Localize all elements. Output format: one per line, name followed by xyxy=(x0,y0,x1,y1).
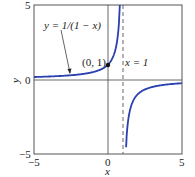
xtick-neg5: −5 xyxy=(28,157,40,168)
point-marker xyxy=(106,63,110,67)
x-axis-label: x xyxy=(105,166,110,177)
curve-right-branch xyxy=(126,83,182,147)
point-label: (0, 1) xyxy=(82,57,106,68)
xtick-5: 5 xyxy=(179,157,185,168)
y-axis-label: y xyxy=(10,78,21,83)
arrow-head-icon xyxy=(68,69,72,75)
asymptote-label: x = 1 xyxy=(125,57,148,68)
ytick-5: 5 xyxy=(25,0,31,11)
function-label: y = 1/(1 − x) xyxy=(44,20,101,31)
label-pointer xyxy=(61,30,70,73)
ytick-0: 0 xyxy=(25,75,31,86)
